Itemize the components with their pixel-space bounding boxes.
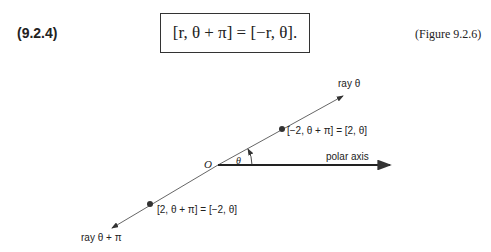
upper-point (279, 126, 285, 132)
upper-point-label: [−2, θ + π] = [2, θ] (287, 125, 367, 136)
angle-label: θ (236, 155, 241, 166)
angle-arc (248, 149, 252, 165)
lower-point (147, 201, 153, 207)
polar-axis-label: polar axis (326, 151, 369, 162)
polar-diagram (0, 0, 491, 252)
ray-theta-label: ray θ (338, 78, 360, 89)
opposite-ray-label: ray θ + π (81, 232, 122, 243)
lower-point-label: [2, θ + π] = [−2, θ] (157, 204, 237, 215)
origin-label: O (204, 158, 212, 170)
ray-theta-plus-pi-line (112, 165, 218, 228)
